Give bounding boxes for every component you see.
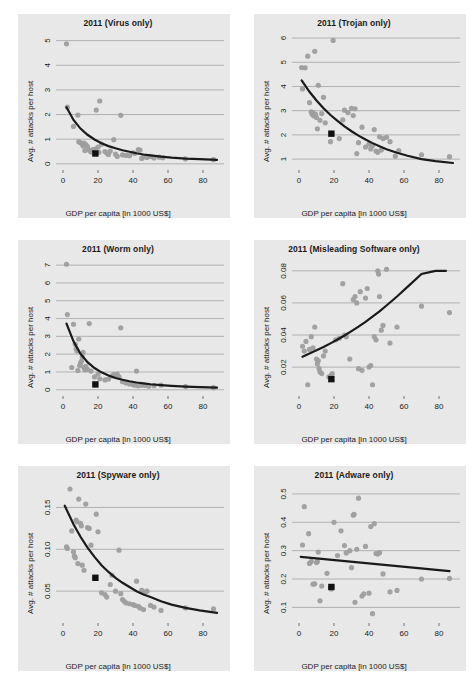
figure-root: 2011 (Virus only)GDP per capita [in 1000…	[0, 0, 472, 679]
data-point	[115, 154, 120, 159]
x-tick-label: 80	[199, 402, 208, 411]
data-point	[328, 139, 333, 144]
data-point	[76, 336, 81, 341]
data-point	[372, 521, 377, 526]
data-point	[372, 127, 377, 132]
scatter-plot: 01234567020406080	[0, 226, 236, 452]
y-tick-label: 0.02	[279, 359, 288, 375]
y-tick-label: 0.1	[279, 601, 288, 613]
x-tick-label: 80	[199, 176, 208, 185]
y-tick-label: 5	[43, 38, 52, 43]
y-tick-label: 3	[43, 334, 52, 339]
data-point	[419, 576, 424, 581]
x-tick-label: 0	[297, 402, 302, 411]
data-point	[75, 368, 80, 373]
data-point	[356, 140, 361, 145]
data-point	[108, 582, 113, 587]
data-point	[88, 368, 93, 373]
data-point	[321, 353, 326, 358]
y-tick-label: 5	[43, 298, 52, 303]
data-point	[361, 591, 366, 596]
x-tick-label: 0	[297, 629, 302, 638]
data-point	[316, 358, 321, 363]
x-tick-label: 0	[61, 402, 66, 411]
data-point	[358, 289, 363, 294]
data-point	[368, 363, 373, 368]
data-point	[419, 304, 424, 309]
data-point	[306, 531, 311, 536]
data-point	[307, 100, 312, 105]
y-tick-label: 0.3	[279, 545, 288, 557]
data-point	[113, 589, 118, 594]
data-point	[330, 371, 335, 376]
data-point	[331, 520, 336, 525]
y-tick-label: 5	[279, 59, 288, 64]
panel-title: 2011 (Misleading Software only)	[236, 244, 472, 254]
data-point	[111, 137, 116, 142]
data-point	[337, 136, 342, 141]
scatter-plot: 0.050.100.15020406080	[0, 452, 236, 679]
data-point	[302, 348, 307, 353]
data-point	[370, 611, 375, 616]
y-tick-label: 2	[43, 351, 52, 356]
data-point	[305, 382, 310, 387]
x-tick-label: 0	[297, 176, 302, 185]
data-point	[354, 547, 359, 552]
y-axis-label: Avg. # attacks per host	[26, 81, 35, 162]
panel-title: 2011 (Spyware only)	[0, 470, 236, 480]
data-point	[338, 528, 343, 533]
data-point	[141, 607, 146, 612]
data-point	[331, 38, 336, 43]
highlight-marker	[328, 376, 334, 382]
y-tick-label: 0.10	[43, 541, 52, 557]
data-point	[380, 571, 385, 576]
data-point	[151, 604, 156, 609]
data-point	[347, 356, 352, 361]
data-point	[377, 550, 382, 555]
data-point	[97, 376, 102, 381]
data-point	[354, 151, 359, 156]
data-point	[312, 581, 317, 586]
y-tick-label: 3	[279, 108, 288, 113]
x-tick-label: 20	[330, 402, 339, 411]
data-point	[352, 512, 357, 517]
data-point	[211, 606, 216, 611]
data-point	[137, 147, 142, 152]
data-point	[71, 322, 76, 327]
data-point	[351, 113, 356, 118]
data-point	[312, 49, 317, 54]
x-axis-label: GDP per capita [in 1000 US$]	[236, 662, 472, 671]
x-tick-label: 60	[164, 176, 173, 185]
data-point	[317, 118, 322, 123]
data-point	[323, 348, 328, 353]
data-point	[94, 512, 99, 517]
highlight-marker	[92, 575, 98, 581]
data-point	[80, 563, 85, 568]
x-tick-label: 40	[365, 176, 374, 185]
data-point	[352, 294, 357, 299]
data-point	[419, 152, 424, 157]
data-point	[309, 334, 314, 339]
y-tick-label: 0.06	[279, 295, 288, 311]
x-tick-label: 60	[164, 629, 173, 638]
y-tick-label: 2	[43, 112, 52, 117]
x-tick-label: 20	[94, 176, 103, 185]
y-tick-label: 0.15	[43, 499, 52, 515]
x-axis-label: GDP per capita [in 1000 US$]	[236, 209, 472, 218]
data-point	[116, 548, 121, 553]
data-point	[321, 95, 326, 100]
data-point	[447, 310, 452, 315]
panel-title: 2011 (Trojan only)	[236, 18, 472, 28]
data-point	[310, 345, 315, 350]
fit-line	[65, 506, 217, 613]
data-point	[377, 294, 382, 299]
y-tick-label: 0.4	[279, 516, 288, 528]
data-point	[95, 529, 100, 534]
data-point	[65, 312, 70, 317]
data-point	[394, 324, 399, 329]
data-point	[363, 544, 368, 549]
data-point	[342, 543, 347, 548]
data-point	[317, 598, 322, 603]
y-tick-label: 4	[279, 84, 288, 89]
data-point	[315, 126, 320, 131]
